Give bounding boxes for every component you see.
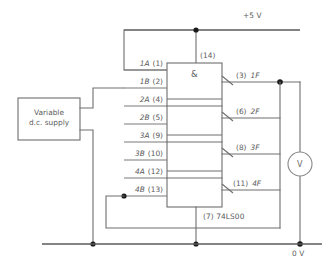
voltmeter-letter: V [297, 160, 302, 169]
output-label-1f: (3)1F [236, 72, 259, 79]
output-pin-1f: (3) [236, 71, 246, 80]
input-label-3b: 3B(10) [84, 150, 163, 157]
input-pin-4a: (12) [148, 167, 163, 176]
input-label-1a: 1A(1) [84, 60, 163, 67]
output-label-3f: (8)3F [236, 144, 259, 151]
input-pin-3a: (9) [153, 131, 163, 140]
label-ic-ground-part: (7) 74LS00 [203, 213, 244, 220]
input-name-3a: 3A [140, 131, 150, 140]
input-label-4a: 4A(12) [84, 168, 163, 175]
circuit-schematic-svg [0, 0, 331, 278]
variable-supply-line1: Variable [18, 108, 80, 118]
input-pin-2a: (4) [153, 95, 163, 104]
output-name-4f: 4F [252, 179, 261, 188]
inversion-slash-3f [222, 148, 233, 157]
output-pin-2f: (6) [236, 107, 246, 116]
input-label-2a: 2A(4) [84, 96, 163, 103]
variable-supply-line2: d.c. supply [18, 118, 80, 128]
input-label-1b: 1B(2) [84, 78, 163, 85]
label-gate-symbol: & [191, 70, 198, 79]
input-label-3a: 3A(9) [84, 132, 163, 139]
inversion-slash-2f [222, 112, 233, 121]
input-pin-1b: (2) [153, 77, 163, 86]
output-name-2f: 2F [250, 107, 259, 116]
input-name-2a: 2A [140, 95, 150, 104]
input-name-1a: 1A [140, 59, 150, 68]
output-pin-4f: (11) [233, 179, 248, 188]
input-label-4b: 4B(13) [84, 186, 163, 193]
input-pin-1a: (1) [153, 59, 163, 68]
input-name-4b: 4B [135, 185, 145, 194]
input-pin-4b: (13) [148, 185, 163, 194]
input-name-4a: 4A [135, 167, 145, 176]
inversion-slash-4f [222, 184, 233, 193]
output-name-1f: 1F [250, 71, 259, 80]
input-name-2b: 2B [140, 113, 150, 122]
output-name-3f: 3F [250, 143, 259, 152]
output-pin-3f: (8) [236, 143, 246, 152]
circuit-diagram-canvas: +5 V (14) & 1A(1) 1B(2) 2A(4) 2B(5) 3A(9… [0, 0, 331, 278]
label-vcc-pin: (14) [200, 52, 216, 59]
label-negative-rail: 0 V [292, 250, 304, 257]
input-pin-2b: (5) [153, 113, 163, 122]
input-name-3b: 3B [135, 149, 145, 158]
input-name-1b: 1B [140, 77, 150, 86]
variable-supply-label: Variable d.c. supply [18, 108, 80, 128]
label-positive-rail: +5 V [243, 12, 262, 19]
input-pin-3b: (10) [148, 149, 163, 158]
output-label-4f: (11)4F [233, 180, 261, 187]
input-label-2b: 2B(5) [84, 114, 163, 121]
output-label-2f: (6)2F [236, 108, 259, 115]
junction-vcc-rail [193, 27, 198, 32]
inversion-slash-1f [222, 76, 233, 85]
